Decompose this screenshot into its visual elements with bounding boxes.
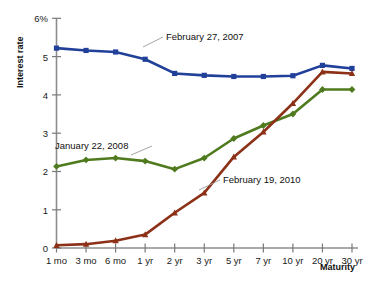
x-tick-label-2-yr: 2 yr (167, 255, 183, 266)
y-tick-label-6: 6% (34, 13, 48, 24)
data-point (349, 86, 356, 93)
x-tick-label-5-yr: 5 yr (226, 255, 242, 266)
data-point (320, 63, 325, 68)
y-tick-label-0: 0 (43, 243, 48, 254)
data-point (112, 155, 119, 162)
data-point (53, 163, 60, 170)
data-point (143, 57, 148, 62)
data-point (202, 73, 207, 78)
data-point (113, 49, 118, 54)
series-annotation-2008: January 22, 2008 (55, 140, 128, 151)
y-tick-label-4: 4 (43, 90, 48, 101)
y-axis-tick-labels: 6% 5 4 3 2 1 0 (34, 13, 48, 254)
data-point (83, 48, 88, 53)
data-point (54, 46, 59, 51)
data-point (290, 73, 295, 78)
x-axis-tick-labels: 1 mo3 mo6 mo1 yr2 yr3 yr5 yr7 yr10 yr20 … (46, 255, 363, 266)
data-point (83, 157, 90, 164)
leader-line-2007 (143, 37, 163, 47)
series-annotation-2007: February 27, 2007 (166, 31, 244, 42)
series-annotation-2010: February 19, 2010 (223, 174, 301, 185)
y-tick-label-5: 5 (43, 52, 48, 63)
data-point (171, 166, 178, 173)
data-point (261, 74, 266, 79)
x-tick-label-3-mo: 3 mo (75, 255, 96, 266)
series-january-22-2008 (53, 86, 355, 172)
data-point (231, 74, 236, 79)
x-tick-label-1-yr: 1 yr (137, 255, 153, 266)
y-axis-title: Interest rate (15, 36, 25, 88)
x-tick-label-3-yr: 3 yr (196, 255, 212, 266)
data-point (142, 158, 149, 165)
y-tick-label-2: 2 (43, 166, 48, 177)
x-tick-label-10-yr: 10 yr (282, 255, 303, 266)
series-line (57, 48, 353, 76)
x-tick-label-6-mo: 6 mo (105, 255, 126, 266)
x-tick-label-7-yr: 7 yr (255, 255, 271, 266)
yield-curve-chart: Interest rate 6% 5 4 3 2 1 0 1 mo3 mo6 m… (0, 0, 371, 281)
x-tick-label-1-mo: 1 mo (46, 255, 67, 266)
data-point (172, 71, 177, 76)
y-tick-label-3: 3 (43, 128, 48, 139)
y-tick-label-1: 1 (43, 205, 48, 216)
chart-canvas: Interest rate 6% 5 4 3 2 1 0 1 mo3 mo6 m… (0, 0, 371, 281)
x-axis-title: Maturity (320, 262, 355, 272)
leader-line-2008 (131, 146, 152, 155)
series-february-27-2007 (54, 46, 355, 80)
